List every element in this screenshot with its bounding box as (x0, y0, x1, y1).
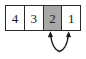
array-cell-value: 1 (68, 12, 75, 25)
array-cell[interactable]: 1 (62, 6, 80, 30)
swap-arrow-head-left-icon (48, 31, 53, 37)
array-cell[interactable]: 3 (25, 6, 44, 30)
array-swap-diagram: 4 3 2 1 (0, 0, 86, 59)
array-cell-value: 3 (30, 12, 37, 25)
array-cell-highlighted[interactable]: 2 (44, 6, 63, 30)
array-cell-value: 2 (49, 12, 56, 25)
swap-arrow-curve (51, 34, 69, 52)
array-cell-value: 4 (12, 12, 19, 25)
array-cell[interactable]: 4 (6, 6, 25, 30)
swap-arrow-head-right-icon (66, 31, 71, 37)
array-cells: 4 3 2 1 (5, 5, 81, 31)
